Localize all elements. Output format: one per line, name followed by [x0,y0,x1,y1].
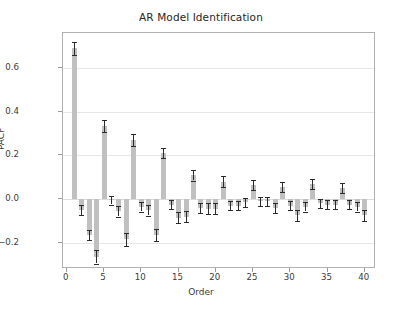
error-bar-line [104,120,105,132]
error-bar-cap-upper [258,197,263,198]
error-bar-line [133,134,134,146]
error-bar-cap-lower [94,264,99,265]
x-tick-label: 5 [100,272,105,282]
error-bar-cap-upper [295,210,300,211]
x-tick-label: 20 [209,272,220,282]
error-bar-line [327,200,328,210]
bar-group [333,33,338,269]
error-bar-line [349,200,350,209]
error-bar-cap-upper [161,148,166,149]
bar-group [154,33,159,269]
error-bar-cap-upper [131,134,136,135]
error-bar-line [290,201,291,211]
error-bar-cap-upper [146,205,151,206]
bar [72,48,77,199]
error-bar-line [260,197,261,206]
x-tick-label: 40 [358,272,369,282]
bar-group [273,33,278,269]
chart-title: AR Model Identification [0,11,402,23]
error-bar-cap-lower [206,214,211,215]
error-bar-line [200,203,201,213]
error-bar-cap-lower [280,192,285,193]
bar-group [265,33,270,269]
error-bar-cap-upper [198,203,203,204]
bar-group [161,33,166,269]
error-bar-line [364,210,365,221]
error-bar-line [178,212,179,223]
plot-area [62,32,375,268]
error-bar-line [96,250,97,263]
bar-group [258,33,263,269]
error-bar-cap-lower [228,210,233,211]
error-bar-cap-upper [251,180,256,181]
error-bar-line [357,202,358,212]
error-bar-cap-upper [265,197,270,198]
bar-group [347,33,352,269]
error-bar-cap-upper [184,211,189,212]
bar-group [318,33,323,269]
bar-group [109,33,114,269]
error-bar-cap-lower [198,213,203,214]
error-bar-cap-upper [213,203,218,204]
error-bar-cap-lower [265,206,270,207]
error-bar-line [335,200,336,209]
error-bar-cap-upper [169,200,174,201]
bar-group [362,33,367,269]
error-bar-cap-lower [109,205,114,206]
bar-group [340,33,345,269]
error-bar-cap-lower [184,222,189,223]
error-bar-cap-upper [310,179,315,180]
error-bar-line [171,200,172,210]
bar-group [72,33,77,269]
error-bar-cap-lower [116,217,121,218]
error-bar-cap-lower [251,190,256,191]
bar-group [280,33,285,269]
error-bar-cap-upper [154,229,159,230]
error-bar-cap-lower [169,209,174,210]
error-bar-cap-lower [295,221,300,222]
error-bar-line [118,206,119,217]
error-bar-cap-upper [124,233,129,234]
error-bar-line [282,182,283,192]
bar-group [191,33,196,269]
bar-group [303,33,308,269]
error-bar-cap-lower [347,209,352,210]
error-bar-cap-lower [79,215,84,216]
bar-group [310,33,315,269]
bar-group [213,33,218,269]
x-tick-label: 30 [284,272,295,282]
error-bar-cap-lower [72,55,77,56]
bar-group [169,33,174,269]
error-bar-cap-upper [228,201,233,202]
error-bar-cap-upper [94,250,99,251]
bar-group [228,33,233,269]
bar [161,153,166,199]
error-bar-line [253,180,254,190]
error-bar-line [223,176,224,187]
y-tick-label: −0.2 [0,237,19,247]
error-bar-cap-lower [146,216,151,217]
bar-group [184,33,189,269]
bar-group [94,33,99,269]
error-bar-cap-lower [273,213,278,214]
error-bar-cap-upper [303,202,308,203]
error-bar-line [141,202,142,212]
error-bar-cap-upper [325,200,330,201]
x-tick-label: 10 [135,272,146,282]
error-bar-line [186,211,187,222]
error-bar-line [193,170,194,181]
error-bar-cap-lower [333,209,338,210]
y-tick-label: 0.6 [0,62,19,72]
bar [102,126,107,199]
bar-group [295,33,300,269]
error-bar-cap-upper [72,42,77,43]
error-bar-cap-upper [347,200,352,201]
error-bar-cap-lower [221,187,226,188]
bar-group [355,33,360,269]
y-axis-label: PACF [0,128,6,150]
error-bar-cap-upper [243,198,248,199]
bar-group [124,33,129,269]
error-bar-line [208,203,209,214]
error-bar-cap-upper [340,183,345,184]
error-bar-line [342,183,343,193]
